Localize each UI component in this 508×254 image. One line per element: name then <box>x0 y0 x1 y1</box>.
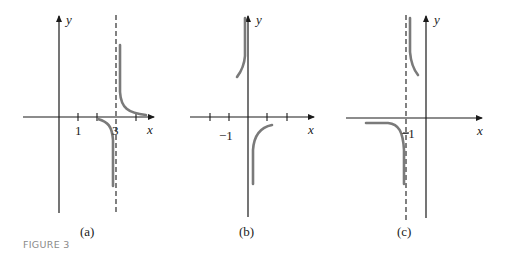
curve-right-branch <box>253 125 272 184</box>
y-axis-label: y <box>64 12 72 27</box>
panel-c: −1 x y (c) <box>346 12 483 239</box>
x-axis-label: x <box>476 123 483 138</box>
tick-label-minus-1: −1 <box>219 128 233 143</box>
panel-b: −1 x y (b) <box>190 12 314 239</box>
figure-caption: FIGURE 3 <box>23 239 70 250</box>
curve-left-branch <box>98 119 113 186</box>
panel-a: 1 3 x y (a) <box>23 12 154 239</box>
x-axis-label: x <box>146 122 153 137</box>
tick-label-3: 3 <box>112 123 119 138</box>
curve-right-branch <box>120 45 146 115</box>
figure-3: 1 3 x y (a) −1 x y (b) −1 x y (c) FIGURE… <box>0 0 508 254</box>
panel-label: (c) <box>397 224 411 239</box>
tick-label-minus-1: −1 <box>401 126 415 141</box>
curve-left-branch <box>366 123 404 184</box>
x-axis-label: x <box>307 122 314 137</box>
tick-label-1: 1 <box>75 123 82 138</box>
y-axis-label: y <box>254 12 262 27</box>
y-axis-label: y <box>432 12 440 27</box>
curve-left-branch <box>237 18 245 77</box>
panel-label: (a) <box>80 224 94 239</box>
panel-label: (b) <box>239 224 254 239</box>
curve-right-branch <box>410 18 418 75</box>
